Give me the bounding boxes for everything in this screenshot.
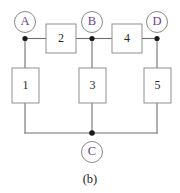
component-label-3: 3 (90, 78, 96, 92)
node-label-A: A (20, 14, 29, 28)
junction-c (89, 130, 95, 136)
node-D: D (147, 12, 168, 33)
node-A: A (15, 12, 36, 33)
circuit-schematic: 12345 ABDC (b) (0, 0, 180, 193)
node-label-C: C (88, 144, 96, 158)
component-label-1: 1 (23, 78, 29, 92)
component-4: 4 (112, 24, 142, 53)
figure-caption: (b) (83, 172, 98, 186)
component-5: 5 (144, 68, 171, 103)
node-label-B: B (88, 14, 96, 28)
circuit-diagram-figure: 12345 ABDC (b) (0, 0, 180, 193)
component-label-4: 4 (124, 31, 130, 45)
junction-b (89, 36, 94, 41)
junction-d (154, 36, 159, 41)
component-1: 1 (12, 68, 39, 103)
node-label-D: D (152, 14, 161, 28)
component-label-2: 2 (58, 31, 64, 45)
component-2: 2 (46, 24, 76, 53)
component-label-5: 5 (155, 78, 161, 92)
node-C: C (82, 142, 103, 163)
component-3: 3 (79, 68, 106, 103)
node-B: B (82, 12, 103, 33)
junction-a (22, 36, 27, 41)
